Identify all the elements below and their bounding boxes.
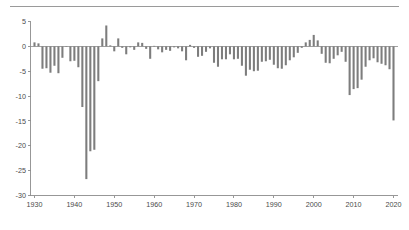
bar (113, 46, 115, 51)
y-axis-tick-label: -10 (16, 92, 26, 101)
x-axis-tick-label: 2000 (306, 200, 322, 209)
bar (221, 46, 223, 59)
bar (233, 46, 235, 59)
bar (237, 46, 239, 58)
bar (213, 46, 215, 62)
bar (265, 46, 267, 61)
y-axis-tick-label: -20 (16, 141, 26, 150)
header-divider-rule (10, 6, 399, 7)
x-axis-tick-label: 1930 (26, 200, 42, 209)
bar (141, 43, 143, 46)
bar (161, 46, 163, 52)
bar (313, 35, 315, 46)
bar (209, 46, 211, 48)
bar (289, 46, 291, 60)
bar (193, 46, 195, 47)
y-axis-tick-group: 50-5-10-15-20-25-30 (16, 17, 31, 200)
x-axis-tick-label: 1950 (106, 200, 122, 209)
bar (61, 46, 63, 57)
bar (369, 46, 371, 60)
y-axis-tick-label: 0 (22, 42, 26, 51)
bar (329, 46, 331, 63)
x-axis-tick-label: 1980 (226, 200, 242, 209)
bar (169, 46, 171, 50)
bar (361, 46, 363, 79)
bar (201, 46, 203, 55)
bar (153, 46, 155, 47)
y-axis-tick-label: -25 (16, 166, 26, 175)
bar (373, 46, 375, 58)
bar (197, 46, 199, 56)
bar (297, 46, 299, 52)
bar (89, 46, 91, 151)
bar (365, 46, 367, 66)
bar (85, 46, 87, 179)
bar (229, 46, 231, 54)
bar (388, 46, 390, 69)
x-axis-tick-label: 1970 (186, 200, 202, 209)
bar (73, 46, 75, 60)
bar (69, 46, 71, 61)
bar (261, 46, 263, 61)
bar (317, 40, 319, 46)
bar (253, 46, 255, 71)
x-axis-tick-group: 1930194019501960197019801990200020102020 (26, 196, 401, 210)
bar (381, 46, 383, 63)
bar (269, 46, 271, 59)
bar (45, 46, 47, 68)
bar (305, 42, 307, 46)
bar (165, 46, 167, 49)
bar (137, 42, 139, 46)
bar (357, 46, 359, 88)
y-axis-tick-label: -30 (16, 191, 26, 200)
bar (157, 46, 159, 49)
x-axis-tick-label: 1990 (266, 200, 282, 209)
bar (341, 46, 343, 51)
bar (133, 46, 135, 49)
bar (185, 46, 187, 60)
bar (333, 46, 335, 58)
bar (325, 46, 327, 62)
x-axis-tick-label: 2020 (386, 200, 402, 209)
bar (309, 40, 311, 46)
bar (301, 46, 303, 47)
bar (121, 46, 123, 47)
x-axis-tick-label: 2010 (346, 200, 362, 209)
bar-chart-svg: 50-5-10-15-20-25-30 19301940195019601970… (0, 12, 409, 230)
bar (392, 46, 394, 120)
bar (149, 46, 151, 58)
bar (37, 43, 39, 46)
bar (273, 46, 275, 64)
bar (349, 46, 351, 95)
y-axis-tick-label: -15 (16, 117, 26, 126)
bar (101, 38, 103, 46)
bar (293, 46, 295, 57)
bar (385, 46, 387, 65)
bar (205, 46, 207, 51)
bar (145, 46, 147, 48)
bar (345, 46, 347, 61)
x-axis-tick-label: 1960 (146, 200, 162, 209)
bar (189, 45, 191, 46)
bar (109, 45, 111, 46)
bar (97, 46, 99, 81)
bar (77, 46, 79, 67)
bar (337, 46, 339, 55)
bar (177, 46, 179, 48)
bar (125, 46, 127, 54)
bar (105, 25, 107, 46)
y-axis-tick-label: 5 (22, 17, 26, 26)
bar (173, 46, 175, 47)
bar (281, 46, 283, 68)
chart-figure: 50-5-10-15-20-25-30 19301940195019601970… (0, 0, 409, 230)
bar (65, 46, 67, 47)
bar (217, 46, 219, 66)
bar (377, 46, 379, 62)
bar (41, 46, 43, 68)
bar (353, 46, 355, 89)
bar (53, 46, 55, 65)
bar (57, 46, 59, 73)
bar (33, 42, 35, 46)
bar (93, 46, 95, 149)
bar (181, 46, 183, 51)
